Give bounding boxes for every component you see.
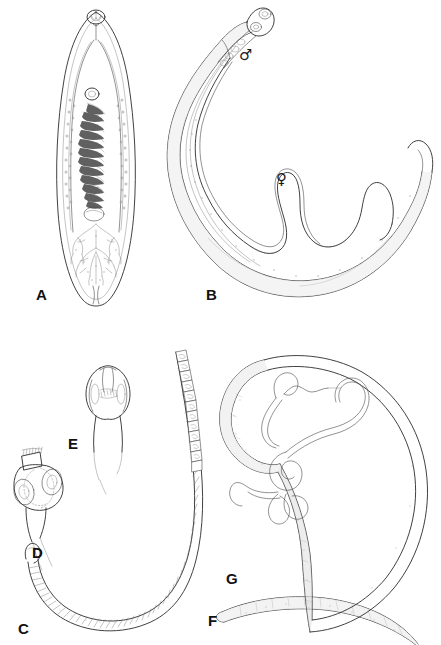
uterus-egg-mass [78, 104, 104, 209]
panel-f-nematode-female [217, 597, 418, 645]
panel-a-fluke [57, 10, 136, 306]
panel-label-c: C [18, 621, 29, 636]
rostellar-hooks [22, 447, 42, 456]
panel-label-d: D [32, 545, 43, 560]
panel-label-e: E [68, 436, 78, 451]
panel-g-nematode-male [220, 356, 428, 632]
panel-label-a: A [36, 287, 47, 302]
female-sex-symbol: ♀ [276, 172, 287, 187]
panel-b-schistosome-pair [167, 8, 433, 297]
panel-c-strobila [25, 350, 202, 631]
figure-plate: A B C D E F G ♂ ♀ [0, 0, 441, 645]
panel-label-g: G [226, 571, 238, 586]
panel-label-f: F [208, 613, 217, 628]
apical-granules [100, 389, 117, 399]
male-sex-symbol: ♂ [239, 48, 252, 63]
proglottid-divisions [29, 352, 199, 628]
panel-e-bothriate-scolex [86, 366, 130, 494]
branched-testes [71, 224, 122, 285]
figure-illustration [0, 0, 441, 645]
gravid-proglottids [176, 350, 202, 472]
panel-label-b: B [206, 287, 217, 302]
